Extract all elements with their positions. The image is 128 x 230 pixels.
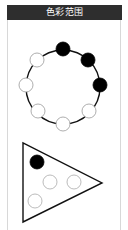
ring-dot-lower-right-empty (82, 104, 96, 118)
triangle-outline (23, 143, 102, 222)
ring-dot-right-filled (93, 78, 107, 92)
ring-dot-lower-left-empty (31, 104, 45, 118)
ring-dot-bottom-empty (56, 117, 70, 131)
triangle-dot-3-empty (67, 175, 81, 189)
ring-figure (19, 42, 107, 131)
triangle-dot-1-filled (30, 155, 44, 169)
triangle-dot-4-empty (28, 194, 42, 208)
triangle-figure (23, 143, 102, 222)
triangle-dot-2-empty (43, 175, 57, 189)
ring-dot-upper-right-filled (81, 53, 95, 67)
ring-dot-upper-left-empty (30, 53, 44, 67)
ring-dot-top-filled (56, 42, 70, 56)
ring-dot-left-empty (19, 78, 33, 92)
figure-canvas (0, 0, 128, 230)
